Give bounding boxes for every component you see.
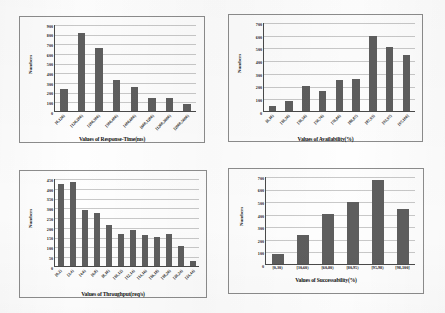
x-axis-title: Values of Availability(%) — [229, 136, 422, 142]
y-tick-label: 0 — [260, 112, 262, 116]
y-tick-label: 200 — [47, 228, 53, 232]
y-tick-label: 100 — [47, 102, 53, 106]
bar-series — [55, 25, 196, 111]
x-tick-label: [87,93) — [364, 114, 375, 125]
x-tick-label: [30,50) — [297, 114, 308, 125]
y-tick-label: 500 — [258, 202, 264, 206]
chart-throughput: Numbers[0,2)[2,4)[4,6)[6,8)[8,10)[10,12)… — [19, 170, 207, 298]
plot-area-availability: 0100200300400500600700 — [263, 23, 415, 112]
bar — [94, 213, 100, 266]
y-tick-label: 600 — [256, 36, 262, 40]
y-tick-label: 200 — [256, 86, 262, 90]
bar — [272, 254, 284, 264]
x-tick-label: [93,97) — [381, 114, 392, 125]
bar — [70, 182, 76, 266]
y-tick-label: 350 — [47, 198, 53, 202]
x-tick-label: [95,98) — [365, 266, 390, 270]
bar-series — [264, 23, 415, 111]
x-tick-label: [60,80) — [315, 266, 340, 270]
bar-series — [55, 179, 199, 266]
y-tick-label: 300 — [47, 83, 53, 87]
y-tick-label: 600 — [258, 189, 264, 193]
y-tick-label: 100 — [258, 252, 264, 256]
x-tick-label: [97,100] — [397, 114, 410, 127]
bar — [58, 184, 64, 266]
chart-response-time: Numbers[0,120)[120,200)[200,300)[300,400… — [19, 16, 205, 143]
bar — [166, 234, 172, 266]
x-tick-label: [50,70) — [314, 114, 325, 125]
y-tick-label: 700 — [256, 23, 262, 27]
x-tick-label: [1200,2000) — [155, 114, 172, 131]
bar — [386, 47, 394, 111]
y-tick-label: 300 — [258, 227, 264, 231]
x-tick-label: [4,6) — [79, 269, 87, 277]
bar — [118, 234, 124, 266]
bar — [60, 89, 68, 111]
chart-availability: Numbers[0,10)[10,30)[30,50)[50,70)[70,80… — [228, 14, 423, 142]
bar — [322, 214, 334, 264]
bar — [95, 48, 103, 111]
x-tick-label: [6,8) — [91, 269, 99, 277]
x-tick-label: [200,300) — [87, 114, 101, 128]
x-tick-label: [20,24) — [172, 269, 183, 280]
y-tick-label: 300 — [47, 208, 53, 212]
y-tick-label: 900 — [47, 25, 53, 29]
bar — [178, 246, 184, 266]
y-tick-label: 50 — [49, 257, 53, 261]
y-axis-title: Numbers — [239, 207, 244, 226]
y-axis-title: Numbers — [28, 209, 33, 228]
y-tick-label: 100 — [47, 247, 53, 251]
x-tick-label: [12,14) — [124, 269, 135, 280]
x-tick-label: [70,80) — [331, 114, 342, 125]
bar — [297, 235, 309, 264]
y-tick-label: 500 — [47, 64, 53, 68]
y-tick-label: 700 — [258, 177, 264, 181]
bar — [82, 210, 88, 266]
x-tick-label: [30,60) — [290, 266, 315, 270]
x-tick-label: [2000,5000) — [173, 114, 190, 131]
x-tick-label: [0,120) — [54, 114, 65, 125]
bar — [403, 55, 411, 111]
plot-area-throughput: 050100150200250300350400450 — [54, 179, 199, 267]
y-tick-label: 400 — [256, 61, 262, 65]
bar — [369, 36, 377, 111]
x-tick-label: [400,600) — [123, 114, 137, 128]
chart-successability: Numbers[0,30)[30,60)[60,80)[80,95)[95,98… — [228, 168, 424, 294]
bar — [148, 98, 156, 111]
y-tick-label: 800 — [47, 35, 53, 39]
x-tick-label: [0,2) — [55, 269, 63, 277]
bar — [269, 106, 277, 111]
bar — [131, 87, 139, 111]
y-tick-label: 400 — [47, 73, 53, 77]
y-tick-label: 400 — [47, 189, 53, 193]
x-tick-label: [14,16) — [136, 269, 147, 280]
x-axis-title: Values of Response-Time(ms) — [20, 136, 204, 142]
bar — [397, 209, 409, 264]
bar — [166, 98, 174, 111]
y-tick-label: 500 — [256, 48, 262, 52]
plot-area-successability: 0100200300400500600700 — [265, 177, 415, 265]
x-tick-label: [2,4) — [67, 269, 75, 277]
x-tick-label: [600,1200) — [139, 114, 155, 130]
x-tick-label: [18,20) — [160, 269, 171, 280]
y-tick-label: 200 — [47, 93, 53, 97]
bar-series — [266, 177, 415, 264]
y-tick-label: 600 — [47, 54, 53, 58]
y-tick-label: 300 — [256, 74, 262, 78]
y-tick-label: 100 — [256, 99, 262, 103]
y-tick-label: 400 — [258, 215, 264, 219]
bar — [302, 86, 310, 111]
y-axis-title: Numbers — [28, 55, 33, 74]
plot-area-response-time: 0100200300400500600700800900 — [54, 25, 196, 112]
bar — [106, 225, 112, 266]
x-tick-label: [8,10) — [101, 269, 111, 279]
bar — [285, 101, 293, 111]
x-tick-label: [80,87) — [347, 114, 358, 125]
bar — [190, 261, 196, 266]
y-axis-title: Numbers — [237, 54, 242, 73]
x-tick-label: [16,18) — [148, 269, 159, 280]
bar — [130, 230, 136, 266]
y-tick-label: 0 — [51, 267, 53, 271]
x-tick-label: [80,95) — [340, 266, 365, 270]
y-tick-label: 200 — [258, 240, 264, 244]
